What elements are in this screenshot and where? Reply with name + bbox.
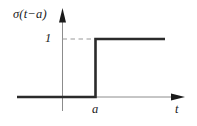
x-axis-arrowhead-icon [171, 93, 185, 100]
x-tick-label-a: a [92, 103, 98, 116]
step-function-curve [17, 39, 165, 97]
y-axis-label: σ(t−a) [13, 8, 47, 21]
step-function-figure: σ(t−a) 1 a t [0, 0, 197, 126]
x-axis-label: t [175, 103, 178, 116]
y-tick-label-one: 1 [45, 32, 51, 45]
y-axis-arrowhead-icon [59, 8, 66, 23]
